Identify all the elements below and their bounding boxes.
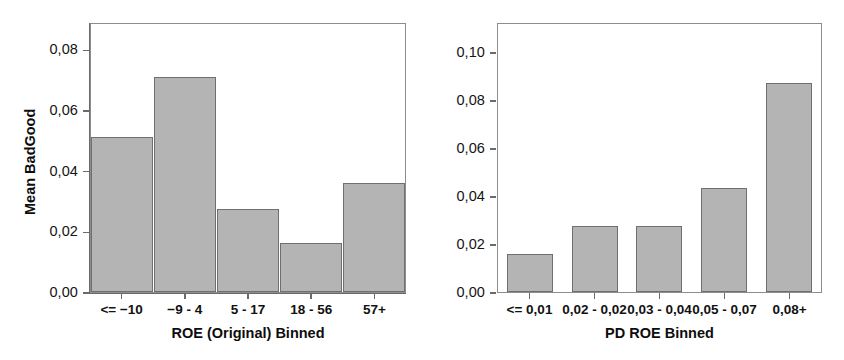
- y-tick-label: 0,04: [456, 188, 485, 204]
- x-tick-mark: [594, 293, 596, 299]
- bar: [280, 243, 342, 292]
- x-tick-mark: [310, 293, 312, 299]
- bar-series-right: [498, 24, 821, 292]
- bar: [701, 188, 747, 292]
- plot-frame-left: [90, 23, 406, 293]
- figure-two-bar-charts: Mean BadGood 0,000,020,040,060,08 <= −10…: [0, 0, 844, 360]
- y-tick-label: 0,00: [456, 284, 485, 300]
- y-tick-label: 0,06: [456, 140, 485, 156]
- x-axis-title-right: PD ROE Binned: [497, 325, 822, 341]
- plot-frame-right: [497, 23, 822, 293]
- bar: [507, 254, 553, 292]
- x-axis-title-left: ROE (Original) Binned: [90, 325, 406, 341]
- y-tick-mark: [490, 292, 496, 294]
- plot-area-left: [91, 24, 405, 292]
- y-tick-mark: [490, 148, 496, 150]
- bar: [572, 226, 618, 292]
- y-tick-mark: [83, 110, 89, 112]
- x-tick-mark: [659, 293, 661, 299]
- y-tick-label: 0,02: [456, 236, 485, 252]
- x-tick-label: 57+: [337, 302, 411, 317]
- y-tick-mark: [490, 100, 496, 102]
- x-tick-label: 0,08+: [749, 302, 831, 317]
- y-tick-label: 0,10: [456, 44, 485, 60]
- plot-area-right: [498, 24, 821, 292]
- y-tick-label: 0,04: [49, 163, 78, 179]
- y-axis-title-left: Mean BadGood: [22, 109, 38, 215]
- y-tick-mark: [490, 244, 496, 246]
- y-tick-mark: [490, 52, 496, 54]
- y-tick-mark: [83, 292, 89, 294]
- x-tick-mark: [529, 293, 531, 299]
- chart-panel-pd-roe: Mean BadGood 0,000,020,040,060,080,10 <=…: [422, 0, 844, 360]
- y-tick-label: 0,02: [49, 223, 78, 239]
- y-tick-label: 0,08: [456, 92, 485, 108]
- bar: [766, 83, 812, 292]
- y-tick-mark: [83, 232, 89, 234]
- bar: [343, 183, 405, 292]
- y-tick-mark: [490, 196, 496, 198]
- x-tick-mark: [374, 293, 376, 299]
- bar-series-left: [91, 24, 405, 292]
- x-tick-mark: [121, 293, 123, 299]
- bar: [154, 77, 216, 292]
- y-tick-label: 0,06: [49, 102, 78, 118]
- y-tick-label: 0,00: [49, 284, 78, 300]
- bar: [636, 226, 682, 292]
- bar: [217, 209, 279, 292]
- bar: [91, 137, 153, 292]
- x-tick-mark: [724, 293, 726, 299]
- y-tick-mark: [83, 171, 89, 173]
- x-tick-mark: [789, 293, 791, 299]
- chart-panel-roe-original: Mean BadGood 0,000,020,040,060,08 <= −10…: [0, 0, 422, 360]
- y-tick-mark: [83, 50, 89, 52]
- y-tick-label: 0,08: [49, 41, 78, 57]
- x-tick-mark: [247, 293, 249, 299]
- x-tick-mark: [184, 293, 186, 299]
